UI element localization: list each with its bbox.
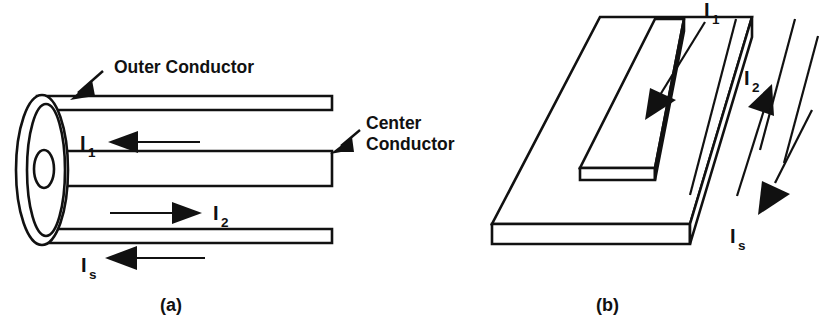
svg-text:1: 1 — [712, 12, 720, 27]
current-i2-arrow-a — [110, 202, 202, 224]
panel-b-microstrip-line — [492, 17, 818, 244]
current-is-label-a: I s — [81, 254, 97, 282]
center-conductor-label-line2: Conductor — [366, 134, 455, 154]
current-i2-arrow-b — [737, 84, 774, 196]
svg-text:s: s — [738, 238, 746, 253]
svg-text:1: 1 — [88, 145, 96, 160]
panel-b-caption: (b) — [596, 295, 619, 315]
center-conductor-annotation — [330, 130, 360, 154]
current-is-label-b: I s — [730, 225, 746, 253]
svg-text:s: s — [89, 267, 97, 282]
svg-text:I: I — [744, 67, 750, 89]
svg-text:2: 2 — [752, 80, 760, 95]
panel-a-caption: (a) — [160, 295, 182, 315]
outer-conductor-lower-wall — [37, 229, 332, 243]
figure-canvas: Outer Conductor Center Conductor I 1 I 2… — [0, 0, 828, 329]
svg-text:I: I — [80, 132, 86, 154]
coax-cut-face-ellipses — [16, 95, 68, 245]
current-is-arrowhead-b — [758, 181, 790, 215]
current-is-arrowhead-a — [105, 246, 137, 270]
current-i2-label-b: I 2 — [744, 67, 760, 95]
panel-a-coaxial-line — [16, 71, 360, 270]
center-conductor-bar — [37, 151, 332, 186]
svg-text:I: I — [704, 0, 710, 21]
outer-conductor-label: Outer Conductor — [114, 57, 254, 77]
svg-text:I: I — [730, 225, 736, 247]
current-i2-arrowhead-a — [172, 202, 202, 224]
figure-root: Outer Conductor Center Conductor I 1 I 2… — [0, 0, 828, 329]
current-is-arrow-a — [105, 246, 205, 270]
svg-text:I: I — [81, 254, 87, 276]
center-conductor-label-line1: Center — [366, 113, 422, 133]
current-i2-label-a: I 2 — [213, 202, 229, 230]
center-conductor-leader-arrowhead — [330, 137, 354, 154]
svg-text:2: 2 — [221, 215, 229, 230]
svg-text:I: I — [213, 202, 219, 224]
